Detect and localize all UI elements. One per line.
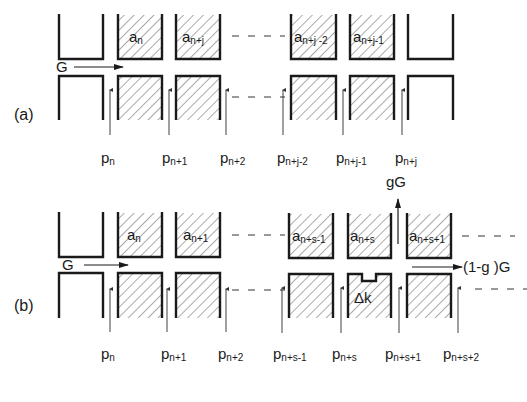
pressure-label: pn+2 <box>220 149 246 167</box>
pressure-label: pn+s+2 <box>443 345 480 363</box>
cell-a-bottom-1 <box>118 76 162 120</box>
part-label: (b) <box>14 297 34 314</box>
part-a: G (a) an an+j an+j -2 an+j-1 pn pn+1 pn+… <box>14 14 453 167</box>
empty-cell-top-left <box>59 14 103 59</box>
cell-a-bottom-2 <box>176 76 220 120</box>
up-flow-label: gG <box>386 173 406 190</box>
cell-a-bottom-3 <box>291 76 336 120</box>
cell-b-bottom-3 <box>289 274 333 318</box>
cell-a-bottom-4 <box>350 76 394 120</box>
empty-cell-bottom-right <box>408 76 453 120</box>
pressure-label: pn+2 <box>218 345 244 363</box>
cell-b-bottom-2 <box>176 273 220 318</box>
pressure-label: pn+1 <box>162 149 188 167</box>
cell-b-bottom-5 <box>407 274 451 318</box>
defect-label: Δk <box>354 289 372 306</box>
flow-label: G <box>56 58 68 75</box>
empty-cell-bottom-left <box>59 273 103 318</box>
pressure-label: pn <box>101 149 115 167</box>
cell-b-bottom-defect: Δk <box>348 274 391 318</box>
part-label: (a) <box>14 106 34 123</box>
pressure-label: pn+j <box>395 149 417 167</box>
empty-cell-top-right <box>408 14 453 59</box>
pressure-label: pn+s-1 <box>273 345 307 363</box>
pressure-label: pn <box>101 345 115 363</box>
pressure-label: pn+j-2 <box>277 149 308 167</box>
cell-b-bottom-1 <box>118 273 162 318</box>
empty-cell-top-left <box>59 212 103 257</box>
out-flow-label: (1-g )G <box>463 258 511 275</box>
pressure-label: pn+j-1 <box>336 149 367 167</box>
part-b: Δk G gG (1-g )G (b) an an+1 an+s-1 <box>14 173 527 363</box>
pressure-label: pn+s <box>332 345 357 363</box>
pressure-label: pn+s+1 <box>385 345 422 363</box>
diagram-canvas: G (a) an an+j an+j -2 an+j-1 pn pn+1 pn+… <box>0 0 527 402</box>
empty-cell-bottom-left <box>59 76 103 120</box>
pressure-label: pn+1 <box>161 345 187 363</box>
flow-label: G <box>62 256 74 273</box>
